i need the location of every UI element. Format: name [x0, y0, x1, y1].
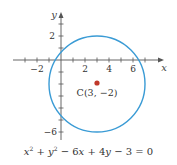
circle-graph: −2 2 4 6 2 −6 x y C(3, −2) — [0, 0, 177, 165]
y-axis-label: y — [50, 9, 57, 20]
tick-label-x-2: 2 — [82, 64, 88, 74]
x-axis-label: x — [161, 62, 167, 73]
y-axis-arrow-icon — [59, 12, 64, 18]
tick-label-y-2: 2 — [49, 31, 55, 41]
tick-label-x-neg2: −2 — [30, 64, 43, 74]
center-label: C(3, −2) — [77, 87, 118, 98]
tick-label-y-neg6: −6 — [44, 127, 58, 137]
center-point — [94, 80, 99, 85]
circle-equation: x2 + y2 − 6x + 4y − 3 = 0 — [0, 146, 177, 157]
tick-label-x-4: 4 — [106, 64, 112, 74]
tick-label-x-6: 6 — [130, 64, 136, 74]
